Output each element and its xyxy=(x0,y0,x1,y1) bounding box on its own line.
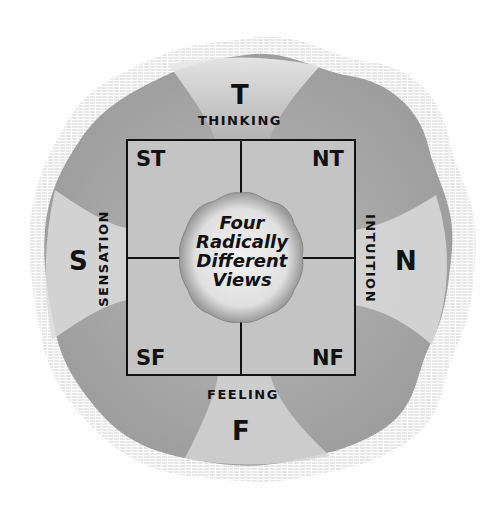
center-line-3: Different xyxy=(176,251,308,270)
pole-top-letter: T xyxy=(231,82,249,108)
quadrant-nt: NT xyxy=(312,149,344,170)
axis-label-thinking: THINKING xyxy=(198,114,282,127)
center-line-1: Four xyxy=(176,213,308,232)
pole-right-letter: N xyxy=(395,248,417,274)
pole-bottom-letter: F xyxy=(232,418,250,444)
pole-left-letter: S xyxy=(69,248,88,274)
center-line-4: Views xyxy=(176,270,308,289)
axis-label-intuition: INTUITION xyxy=(364,209,377,309)
center-caption: Four Radically Different Views xyxy=(176,213,308,289)
quadrant-st: ST xyxy=(136,149,165,170)
quadrant-nf: NF xyxy=(312,348,344,369)
four-views-diagram: T F S N THINKING FEELING SENSATION INTUI… xyxy=(0,0,489,510)
quadrant-sf: SF xyxy=(136,348,165,369)
axis-label-sensation: SENSATION xyxy=(97,209,110,309)
center-line-2: Radically xyxy=(176,232,308,251)
axis-label-feeling: FEELING xyxy=(207,388,279,401)
